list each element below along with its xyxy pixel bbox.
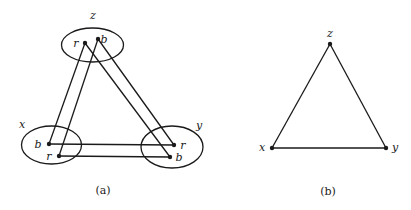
figure-b-caption: (b) — [320, 185, 336, 198]
vertex-y-ellipse — [141, 126, 203, 168]
figure-a: z r b x b r y r b (a) — [19, 9, 203, 197]
vertex-x — [270, 146, 274, 150]
point-z-r-label: r — [73, 37, 79, 50]
vertex-z — [328, 42, 332, 46]
point-y-r — [172, 143, 176, 147]
point-y-b-label: b — [175, 151, 182, 164]
diagram-canvas: z r b x b r y r b (a) z x y (b) — [0, 0, 411, 210]
edge-xb-yr — [49, 144, 174, 145]
point-x-b-label: b — [34, 138, 41, 151]
point-y-b — [168, 155, 172, 159]
figure-a-caption: (a) — [95, 184, 110, 197]
point-z-r — [83, 41, 87, 45]
edge-zr-yb — [85, 43, 170, 157]
vertex-z-label: z — [326, 27, 333, 40]
edge-zb-yr — [98, 39, 174, 145]
point-z-b-label: b — [100, 33, 107, 46]
edge-z-x — [272, 44, 330, 148]
figure-b: z x y (b) — [259, 27, 399, 198]
point-x-b — [47, 142, 51, 146]
vertex-y-label: y — [391, 141, 399, 154]
vertex-z-label: z — [89, 9, 96, 22]
edge-z-y — [330, 44, 386, 148]
vertex-y-label: y — [195, 119, 203, 132]
edge-zb-xr — [59, 39, 98, 156]
vertex-x-label: x — [259, 141, 266, 154]
vertex-y — [384, 146, 388, 150]
point-x-r — [57, 154, 61, 158]
vertex-x-label: x — [19, 118, 26, 131]
point-x-r-label: r — [46, 150, 52, 163]
